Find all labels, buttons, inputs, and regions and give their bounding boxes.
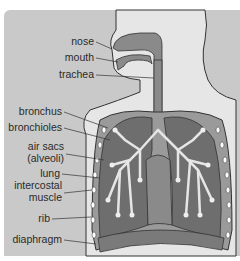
label-diaphragm: diaphragm [4, 234, 62, 245]
heart-space [146, 155, 172, 225]
label-lung: lung [4, 168, 60, 179]
left-lung [99, 117, 152, 238]
label-alveoli: (alveoli) [4, 153, 64, 164]
label-rib: rib [4, 213, 50, 224]
label-trachea: trachea [40, 69, 94, 80]
label-mouth: mouth [50, 52, 94, 63]
label-muscle: muscle [4, 192, 62, 203]
label-air-sacs: air sacs [4, 141, 64, 152]
label-bronchioles: bronchioles [4, 122, 62, 133]
label-bronchus: bronchus [4, 106, 62, 117]
label-nose: nose [50, 36, 94, 47]
label-intercostal: intercostal [4, 180, 62, 191]
